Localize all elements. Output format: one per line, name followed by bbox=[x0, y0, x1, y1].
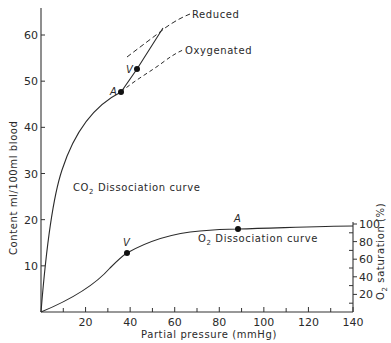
x-tick-label: 40 bbox=[123, 316, 137, 329]
o2-point-a bbox=[235, 226, 241, 232]
co2-point-a bbox=[118, 89, 124, 95]
co2-dissociation-curve bbox=[41, 28, 163, 312]
co2-curve-label: CO2 Dissociation curve bbox=[73, 182, 200, 196]
right-tick-label: 20 bbox=[359, 288, 373, 301]
y-tick-label: 40 bbox=[24, 121, 38, 134]
x-tick-label: 120 bbox=[298, 316, 319, 329]
o2-point-v bbox=[124, 250, 130, 256]
y-right-axis-title: O2 saturation (%) bbox=[375, 203, 389, 300]
y-tick-label: 30 bbox=[24, 168, 38, 181]
right-tick-label: 80 bbox=[359, 236, 373, 249]
x-tick-label: 60 bbox=[168, 316, 182, 329]
oxygenated-label: Oxygenated bbox=[185, 45, 252, 56]
y-tick-label: 10 bbox=[24, 260, 38, 273]
y-tick-label: 60 bbox=[24, 29, 38, 42]
o2-point-v-label: V bbox=[123, 237, 131, 248]
o2-point-a-label: A bbox=[233, 213, 241, 224]
y-tick-label: 50 bbox=[24, 75, 38, 88]
dissociation-chart: 20406080100120140 102030405060 204060801… bbox=[0, 0, 391, 343]
x-tick-label: 80 bbox=[212, 316, 226, 329]
y-axis-ticks bbox=[41, 35, 45, 266]
x-tick-label: 20 bbox=[79, 316, 93, 329]
x-axis-ticks bbox=[63, 307, 353, 312]
co2-point-v-label: V bbox=[126, 64, 134, 75]
x-tick-label: 140 bbox=[343, 316, 364, 329]
x-axis-tick-labels: 20406080100120140 bbox=[79, 316, 364, 329]
o2-curve-label: O2 Dissociation curve bbox=[198, 233, 318, 247]
x-axis-title: Partial pressure (mmHg) bbox=[141, 329, 277, 340]
right-tick-label: 40 bbox=[359, 271, 373, 284]
x-tick-label: 100 bbox=[253, 316, 274, 329]
co2-point-a-label: A bbox=[109, 86, 117, 97]
y-tick-label: 20 bbox=[24, 214, 38, 227]
reduced-label: Reduced bbox=[192, 9, 240, 20]
co2-point-v bbox=[134, 66, 140, 72]
y-axis-title: Content ml/100ml blood bbox=[8, 120, 19, 255]
right-tick-label: 60 bbox=[359, 253, 373, 266]
y-axis-tick-labels: 102030405060 bbox=[24, 29, 38, 273]
